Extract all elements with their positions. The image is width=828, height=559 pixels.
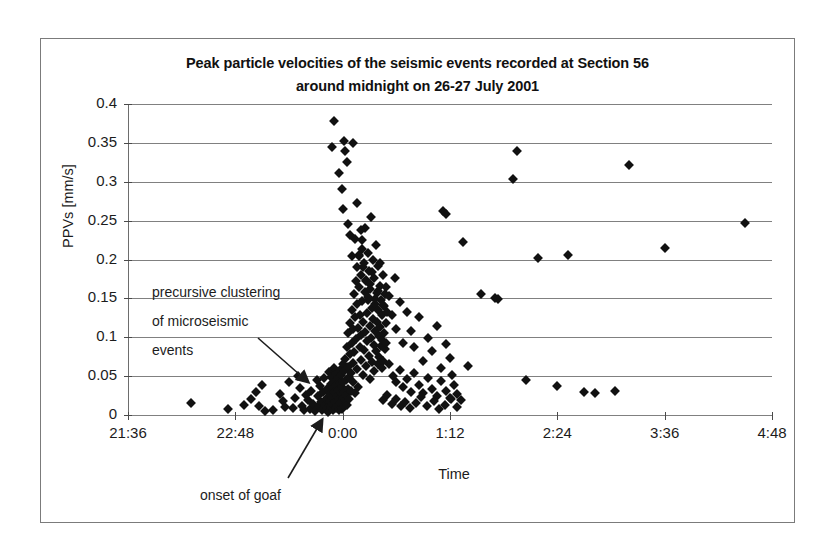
data-point: [423, 333, 433, 343]
data-point: [445, 353, 455, 363]
x-axis-label: Time: [0, 466, 828, 482]
data-point: [350, 234, 360, 244]
data-point: [463, 361, 473, 371]
y-tick-mark: [124, 298, 132, 299]
y-tick-mark: [124, 104, 132, 105]
data-point: [268, 405, 278, 415]
data-point: [352, 198, 362, 208]
x-tick-label: 21:36: [93, 424, 163, 441]
data-point: [450, 381, 460, 391]
data-point: [390, 273, 400, 283]
data-point: [288, 403, 298, 413]
data-point: [552, 381, 562, 391]
x-tick-label: 0:00: [308, 424, 378, 441]
data-point: [293, 371, 303, 381]
y-tick-label: 0.3: [55, 172, 117, 189]
figure-container: Peak particle velocities of the seismic …: [0, 0, 828, 559]
precursive-cluster-annotation: precursive clustering of microseismic ev…: [152, 278, 280, 365]
y-tick-mark: [124, 260, 132, 261]
data-point: [378, 270, 388, 280]
data-point: [590, 388, 600, 398]
gridline: [128, 104, 772, 105]
chart-title-line-1: Peak particle velocities of the seismic …: [60, 52, 775, 75]
x-tick-mark: [343, 412, 344, 420]
data-point: [458, 237, 468, 247]
y-tick-label: 0.05: [55, 366, 117, 383]
y-tick-label: 0.25: [55, 211, 117, 228]
data-point: [740, 218, 750, 228]
y-tick-label: 0.35: [55, 133, 117, 150]
gridline: [128, 260, 772, 261]
data-point: [338, 204, 348, 214]
data-point: [414, 312, 424, 322]
data-point: [342, 157, 352, 167]
data-point: [395, 365, 405, 375]
data-point: [441, 339, 451, 349]
precursive-cluster-line-2: of microseismic: [152, 307, 280, 336]
chart-title: Peak particle velocities of the seismic …: [60, 52, 775, 98]
data-point: [624, 160, 634, 170]
data-point: [399, 338, 409, 348]
data-point: [563, 250, 573, 260]
data-point: [406, 387, 416, 397]
x-tick-label: 3:36: [630, 424, 700, 441]
y-tick-mark: [124, 376, 132, 377]
y-tick-label: 0: [55, 405, 117, 422]
data-point: [611, 386, 621, 396]
y-tick-label: 0.4: [55, 94, 117, 111]
x-tick-mark: [665, 412, 666, 420]
data-point: [334, 168, 344, 178]
data-point: [533, 253, 543, 263]
chart-title-line-2: around midnight on 26-27 July 2001: [60, 75, 775, 98]
data-point: [406, 326, 416, 336]
data-point: [418, 356, 428, 366]
x-tick-mark: [235, 412, 236, 420]
y-tick-mark: [124, 337, 132, 338]
data-point: [340, 146, 350, 156]
data-point: [512, 146, 522, 156]
data-point: [337, 184, 347, 194]
data-point: [402, 307, 412, 317]
x-tick-label: 22:48: [200, 424, 270, 441]
data-point: [186, 398, 196, 408]
data-point: [329, 116, 339, 126]
data-point: [290, 393, 300, 403]
data-point: [436, 363, 446, 373]
gridline: [128, 221, 772, 222]
x-tick-mark: [557, 412, 558, 420]
x-tick-mark: [128, 412, 129, 420]
data-point: [223, 404, 233, 414]
x-tick-label: 2:24: [522, 424, 592, 441]
x-tick-label: 4:48: [737, 424, 807, 441]
data-point: [436, 376, 446, 386]
y-tick-label: 0.2: [55, 250, 117, 267]
data-point: [387, 311, 397, 321]
data-point: [660, 243, 670, 253]
data-point: [432, 321, 442, 331]
y-tick-label: 0.15: [55, 288, 117, 305]
data-point: [423, 374, 433, 384]
y-tick-mark: [124, 221, 132, 222]
data-point: [284, 377, 294, 387]
data-point: [508, 174, 518, 184]
x-tick-label: 1:12: [415, 424, 485, 441]
data-point: [427, 346, 437, 356]
data-point: [409, 342, 419, 352]
x-tick-mark: [772, 412, 773, 420]
y-tick-mark: [124, 143, 132, 144]
precursive-cluster-line-1: precursive clustering: [152, 278, 280, 307]
precursive-cluster-line-3: events: [152, 336, 280, 365]
data-point: [447, 370, 457, 380]
plot-area: [128, 104, 772, 415]
y-tick-mark: [124, 182, 132, 183]
onset-of-goaf-annotation: onset of goaf: [200, 487, 281, 503]
x-tick-mark: [450, 412, 451, 420]
data-point: [476, 289, 486, 299]
data-point: [391, 325, 401, 335]
data-point: [371, 240, 381, 250]
x-axis-label-text: Time: [438, 466, 470, 482]
y-tick-label: 0.1: [55, 327, 117, 344]
gridline: [128, 143, 772, 144]
data-point: [579, 387, 589, 397]
data-point: [348, 138, 358, 148]
